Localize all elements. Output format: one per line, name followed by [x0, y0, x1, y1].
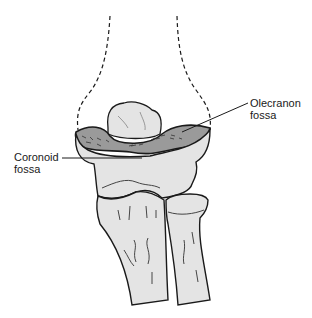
label-coronoid-fossa: Coronoid fossa — [14, 151, 59, 175]
label-olecranon-fossa: Olecranon fossa — [250, 97, 301, 121]
label-olecranon-line1: Olecranon — [250, 97, 301, 109]
label-coronoid-line1: Coronoid — [14, 151, 59, 163]
label-coronoid-line2: fossa — [14, 163, 59, 175]
label-olecranon-line2: fossa — [250, 109, 301, 121]
trochlea-top — [108, 102, 162, 139]
olecranon-leader-line — [182, 103, 248, 132]
ulna — [97, 192, 168, 305]
elbow-diagram: Olecranon fossa Coronoid fossa — [0, 0, 312, 318]
